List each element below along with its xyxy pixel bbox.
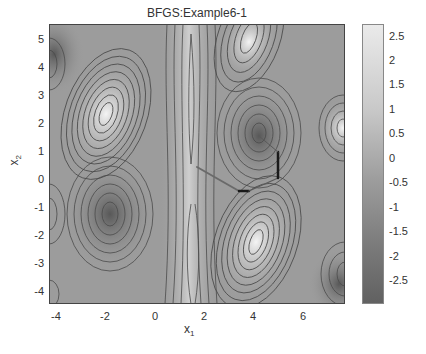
x-tick: -2 (90, 310, 120, 322)
y-tick: -2 (14, 229, 44, 241)
y-tick: -4 (14, 285, 44, 297)
x-tick: 4 (238, 310, 268, 322)
colorbar-tick: 1 (389, 103, 395, 115)
colorbar-tick: 2.5 (389, 30, 404, 42)
x-axis-label: x1 (184, 322, 194, 338)
colorbar-tick: 2 (389, 54, 395, 66)
y-axis-label: x2 (7, 155, 23, 165)
x-tick: 0 (140, 310, 170, 322)
colorbar-tick: 1.5 (389, 78, 404, 90)
colorbar-tick: -2.5 (389, 274, 408, 286)
colorbar-tick: 0 (389, 152, 395, 164)
y-tick: 4 (14, 61, 44, 73)
y-tick: -1 (14, 201, 44, 213)
x-tick: 6 (288, 310, 318, 322)
contour-plot-area (49, 24, 345, 304)
colorbar-tick: -2 (389, 250, 399, 262)
x-tick: 2 (189, 310, 219, 322)
y-tick: 0 (14, 173, 44, 185)
chart-title: BFGS:Example6-1 (49, 6, 345, 20)
y-tick: -3 (14, 257, 44, 269)
colorbar-tick: -1 (389, 201, 399, 213)
colorbar-tick: -1.5 (389, 225, 408, 237)
colorbar (362, 24, 384, 304)
y-tick: 2 (14, 117, 44, 129)
contour-svg (49, 24, 345, 304)
colorbar-tick: -0.5 (389, 176, 408, 188)
y-tick: 5 (14, 33, 44, 45)
x-tick: -4 (41, 310, 71, 322)
y-tick: 3 (14, 89, 44, 101)
colorbar-tick: 0.5 (389, 127, 404, 139)
